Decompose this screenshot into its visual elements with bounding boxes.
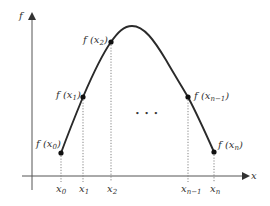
x-tick-label-x2: x2: [107, 184, 117, 196]
point-x0: [58, 150, 63, 155]
point-xn-1: [185, 94, 190, 99]
function-sampling-diagram: f x • • • f (x0) f (x1) f (x2) f (xn−1) …: [0, 0, 270, 206]
diagram-canvas: [0, 0, 270, 206]
f-label-x2: f (x2): [83, 35, 108, 47]
f-label-xn-1: f (xn−1): [194, 91, 229, 103]
x-tick-label-xn-1: xn−1: [181, 184, 201, 196]
point-xn: [211, 149, 216, 154]
sample-points: [58, 39, 216, 155]
f-label-x1: f (x1): [56, 90, 81, 102]
y-axis-label: f: [19, 11, 23, 21]
point-x1: [80, 94, 85, 99]
x-tick-label-x0: x0: [56, 184, 66, 196]
x-axis-label: x: [251, 171, 257, 181]
f-label-xn: f (xn): [218, 140, 243, 152]
f-label-x0: f (x0): [36, 139, 61, 151]
x-tick-label-x1: x1: [79, 184, 89, 196]
ellipsis: • • •: [135, 110, 159, 118]
point-x2: [108, 39, 113, 44]
x-tick-label-xn: xn: [210, 184, 220, 196]
